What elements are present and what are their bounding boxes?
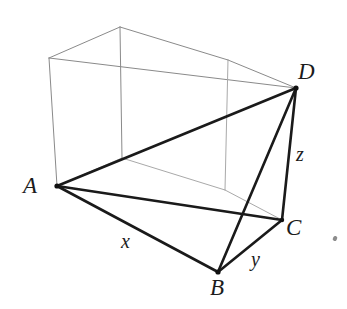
vertex-dot-B <box>215 269 220 274</box>
figure-background <box>0 0 347 309</box>
vertex-label-c: C <box>286 216 301 239</box>
figure-canvas <box>0 0 347 309</box>
edge-label-y: y <box>251 249 260 269</box>
edge-label-z: z <box>296 144 304 164</box>
vertex-label-d: D <box>298 60 315 83</box>
vertex-dot-C <box>280 218 284 222</box>
geometry-figure: A B C D x y z <box>0 0 347 309</box>
edge-label-x: x <box>121 231 130 251</box>
vertex-dot-D <box>293 85 298 90</box>
vertex-label-b: B <box>210 276 224 299</box>
vertex-dot-A <box>54 183 59 188</box>
vertex-label-a: A <box>23 174 37 197</box>
